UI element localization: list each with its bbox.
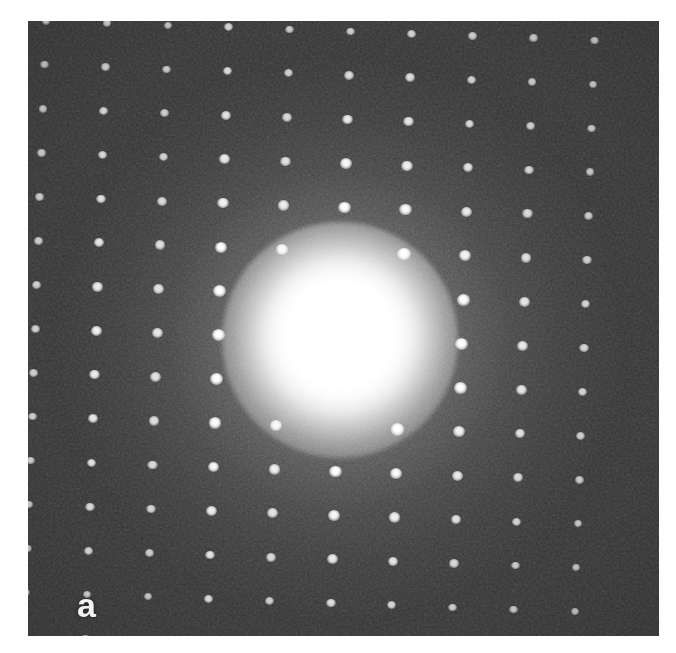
diffraction-spot	[455, 338, 468, 350]
diffraction-spot	[145, 549, 154, 557]
diffraction-spot	[213, 285, 226, 297]
diffraction-spot	[269, 464, 281, 475]
diffraction-spot	[399, 204, 411, 215]
diffraction-spot	[157, 197, 167, 206]
diffraction-spot	[267, 508, 278, 518]
diffraction-spot	[391, 423, 404, 435]
diffraction-spot	[390, 468, 402, 479]
diffraction-spot	[210, 373, 223, 385]
diffraction-spot	[513, 473, 523, 482]
beam-halo	[28, 21, 659, 636]
diffraction-spot	[389, 512, 400, 522]
diffraction-spot	[282, 113, 292, 122]
diffraction-spot	[576, 432, 585, 440]
diffraction-spot	[278, 200, 290, 211]
diffraction-spot	[206, 506, 217, 516]
diffraction-spot	[572, 564, 580, 571]
diffraction-spot	[575, 476, 584, 484]
diffraction-spot	[208, 462, 220, 473]
diffraction-spot	[40, 61, 48, 68]
diffraction-spot	[159, 153, 168, 161]
film-grain-overlay-fine	[28, 21, 659, 636]
diffraction-spot	[401, 161, 412, 171]
diffraction-spot	[219, 154, 230, 164]
diffraction-spot	[155, 240, 166, 249]
diffraction-figure: a	[0, 0, 676, 653]
diffraction-spot	[587, 125, 595, 132]
diffraction-spot	[338, 202, 351, 214]
diffraction-spot	[223, 67, 232, 75]
diffraction-spot	[147, 461, 157, 470]
diffraction-spot	[461, 207, 472, 217]
diffraction-spot	[31, 325, 40, 333]
diffraction-plate: a	[28, 21, 659, 636]
diffraction-spot	[98, 151, 107, 159]
diffraction-spot	[340, 158, 352, 169]
diffraction-spot	[521, 253, 532, 262]
diffraction-spot	[586, 168, 594, 175]
diffraction-spot	[457, 294, 470, 306]
diffraction-spot	[150, 372, 161, 382]
diffraction-spot	[28, 501, 33, 508]
diffraction-spot	[327, 554, 338, 564]
diffraction-spot	[449, 559, 459, 567]
diffraction-spot	[224, 23, 233, 31]
diffraction-spot	[387, 601, 396, 609]
diffraction-spot	[519, 297, 530, 307]
diffraction-spot	[28, 413, 37, 421]
diffraction-spot	[467, 76, 476, 84]
diffraction-spot	[146, 505, 155, 513]
diffraction-spot	[217, 198, 229, 208]
diffraction-spot	[152, 328, 163, 338]
diffraction-spot	[32, 281, 41, 289]
diffraction-spot	[34, 237, 43, 245]
diffraction-spot	[35, 193, 44, 201]
diffraction-spot	[212, 329, 225, 341]
diffraction-spot	[209, 417, 221, 428]
diffraction-spot	[578, 388, 588, 396]
diffraction-spot	[89, 370, 100, 379]
diffraction-spot	[270, 420, 283, 432]
diffraction-spot	[529, 34, 538, 41]
diffraction-spot	[284, 69, 293, 77]
diffraction-spot	[453, 426, 465, 437]
diffraction-spot	[528, 78, 537, 85]
diffraction-spot	[342, 115, 353, 125]
diffraction-spot	[280, 157, 291, 167]
film-grain-overlay	[28, 21, 659, 636]
diffraction-spot	[144, 593, 152, 600]
diffraction-spot	[515, 429, 526, 438]
diffraction-spot	[517, 341, 528, 351]
diffraction-spot	[266, 553, 276, 562]
diffraction-spot	[28, 457, 35, 465]
diffraction-spot	[39, 105, 48, 112]
diffraction-spot	[582, 256, 591, 264]
diffraction-spot	[87, 459, 97, 467]
diffraction-spot	[84, 547, 93, 555]
diffraction-spot	[589, 81, 597, 88]
diffraction-spot	[522, 209, 532, 218]
diffraction-spot	[509, 606, 517, 613]
diffraction-spot	[85, 503, 94, 511]
diffraction-spot	[101, 63, 110, 71]
diffraction-spot	[448, 604, 457, 612]
diffraction-spot	[581, 300, 591, 308]
diffraction-spot	[265, 597, 274, 605]
diffraction-spot	[524, 166, 533, 174]
diffraction-spot	[459, 250, 471, 261]
diffraction-spot	[88, 414, 98, 423]
diffraction-spot	[571, 608, 579, 615]
diffraction-spot	[579, 344, 589, 352]
diffraction-spot	[28, 589, 30, 596]
panel-label: a	[77, 588, 96, 622]
diffraction-spot	[329, 466, 342, 478]
diffraction-spot	[463, 163, 473, 172]
diffraction-spot	[516, 385, 527, 395]
diffraction-spot	[388, 557, 398, 566]
diffraction-spot	[28, 545, 32, 552]
diffraction-spot	[407, 30, 416, 38]
diffraction-spot	[590, 37, 598, 44]
plate-vignette	[28, 21, 659, 636]
diffraction-spot	[204, 595, 213, 603]
diffraction-spot	[574, 520, 582, 527]
